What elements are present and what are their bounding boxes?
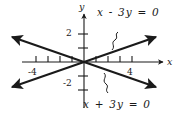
leader-squiggle-lower <box>104 73 108 93</box>
y-axis-label: y <box>79 2 84 12</box>
x-axis-label: x <box>167 57 172 67</box>
equation-label-upper: x - 3y = 0 <box>97 7 160 18</box>
x-tick-label-neg4: -4 <box>28 68 37 77</box>
graph-figure: x - 3y = 0 x + 3y = 0 x y -4 4 2 -2 <box>0 0 179 117</box>
equation-label-lower: x + 3y = 0 <box>83 99 151 110</box>
y-tick-label-neg2: -2 <box>63 79 72 88</box>
x-tick-label-pos4: 4 <box>127 68 133 77</box>
leader-squiggle-upper <box>112 32 118 50</box>
y-tick-label-pos2: 2 <box>66 29 72 38</box>
